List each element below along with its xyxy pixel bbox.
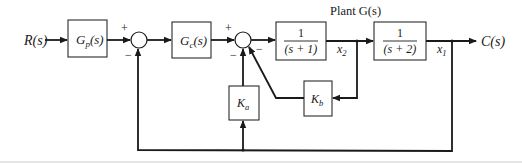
input-label: R(s)	[23, 33, 48, 49]
sum2-minus-right-sign: −	[256, 42, 263, 56]
plant-block-1: 1 (s + 1)	[276, 22, 326, 60]
sum2-plus-sign: +	[225, 21, 232, 35]
sum1-minus-sign: −	[125, 48, 132, 62]
svg-text:Gc(s): Gc(s)	[180, 33, 207, 50]
plant1-numerator: 1	[298, 26, 304, 40]
prefilter-block: Gp(s)	[68, 20, 107, 57]
plant-title: Plant G(s)	[330, 4, 381, 18]
signal-x2-label: x2	[336, 42, 347, 58]
kb-block: Kb	[304, 81, 332, 116]
sum1-plus-sign: +	[121, 21, 128, 35]
summing-junction-2: + − −	[225, 21, 263, 62]
plant1-denominator: (s + 1)	[285, 42, 318, 56]
controller-block: Gc(s)	[172, 22, 211, 58]
sum2-minus-left-sign: −	[230, 48, 237, 62]
block-diagram: R(s) Gp(s) + − Gc(s) + − − Plant G(s)	[0, 0, 522, 163]
signal-x1-label: x1	[436, 42, 447, 58]
output-label: C(s)	[481, 34, 505, 50]
ka-block: Ka	[229, 86, 259, 120]
plant2-denominator: (s + 2)	[384, 42, 417, 56]
bottom-border	[0, 161, 522, 163]
svg-text:Gp(s): Gp(s)	[76, 32, 104, 49]
plant2-numerator: 1	[397, 26, 403, 40]
summing-junction-1: + −	[121, 21, 147, 62]
plant-block-2: 1 (s + 2)	[374, 22, 426, 60]
